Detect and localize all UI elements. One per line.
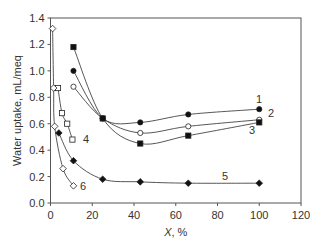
water-uptake-chart: 0.00.20.40.60.81.01.21.4020406080100120X… xyxy=(0,0,325,244)
y-tick-label: 1.4 xyxy=(29,12,44,24)
data-point-square xyxy=(186,133,191,138)
data-point-circle xyxy=(71,68,76,73)
data-point-circle xyxy=(186,124,191,129)
y-tick-label: 1.0 xyxy=(29,65,44,77)
y-tick-label: 0.8 xyxy=(29,91,44,103)
data-point-square xyxy=(100,116,105,121)
series-label-1: 1 xyxy=(256,93,262,105)
x-tick-label: 120 xyxy=(292,209,310,221)
data-point-diamond xyxy=(51,123,58,130)
x-tick-label: 60 xyxy=(170,209,182,221)
data-point-diamond xyxy=(256,180,263,187)
data-point-square xyxy=(59,111,64,116)
x-tick-label: 100 xyxy=(250,209,268,221)
series-label-3: 3 xyxy=(249,124,255,136)
data-point-square xyxy=(70,137,75,142)
data-point-circle xyxy=(257,107,262,112)
series-label-4: 4 xyxy=(83,133,89,145)
data-point-circle xyxy=(71,84,76,89)
y-tick-label: 0.6 xyxy=(29,118,44,130)
data-point-square xyxy=(65,121,70,126)
y-tick-label: 1.2 xyxy=(29,38,44,50)
y-tick-label: 0.0 xyxy=(29,197,44,209)
data-point-diamond xyxy=(99,176,106,183)
data-point-square xyxy=(257,120,262,125)
y-tick-label: 0.4 xyxy=(29,144,44,156)
x-axis-label: X, % xyxy=(163,226,187,238)
x-tick-label: 80 xyxy=(211,209,223,221)
plot-frame xyxy=(51,18,302,203)
data-point-square xyxy=(138,141,143,146)
data-point-circle xyxy=(186,112,191,117)
data-point-diamond xyxy=(137,179,144,186)
series-line-3 xyxy=(73,47,259,144)
data-point-diamond xyxy=(60,165,67,172)
data-point-circle xyxy=(138,130,143,135)
data-point-diamond xyxy=(56,130,63,137)
x-tick-label: 20 xyxy=(86,209,98,221)
series-line-2 xyxy=(73,87,259,133)
series-line-6 xyxy=(53,29,74,186)
series-label-5: 5 xyxy=(222,170,228,182)
data-point-circle xyxy=(138,120,143,125)
data-point-square xyxy=(71,44,76,49)
data-point-diamond xyxy=(185,180,192,187)
x-tick-label: 0 xyxy=(47,209,53,221)
series-label-6: 6 xyxy=(80,180,86,192)
series-label-2: 2 xyxy=(268,107,274,119)
x-tick-label: 40 xyxy=(128,209,140,221)
y-axis-label: Water uptake, mL/meq xyxy=(11,55,23,166)
y-tick-label: 0.2 xyxy=(29,171,44,183)
